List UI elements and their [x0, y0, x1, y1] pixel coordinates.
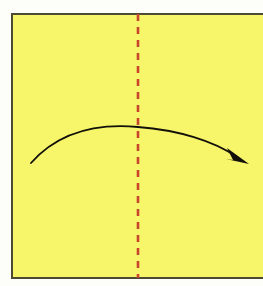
origami-fold-figure: Origami instruction: fold the yellow squ… — [0, 0, 263, 286]
figure-canvas — [0, 0, 263, 286]
